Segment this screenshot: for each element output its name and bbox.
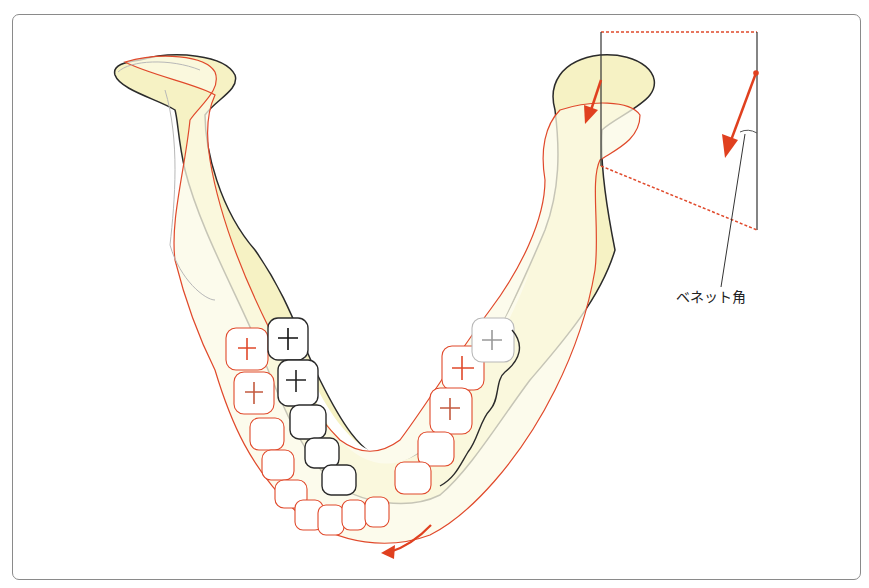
bennett-direction-arrow-icon	[722, 73, 756, 158]
mandible-shifted	[118, 56, 640, 543]
bennett-angle-label: ベネット角	[676, 286, 746, 306]
